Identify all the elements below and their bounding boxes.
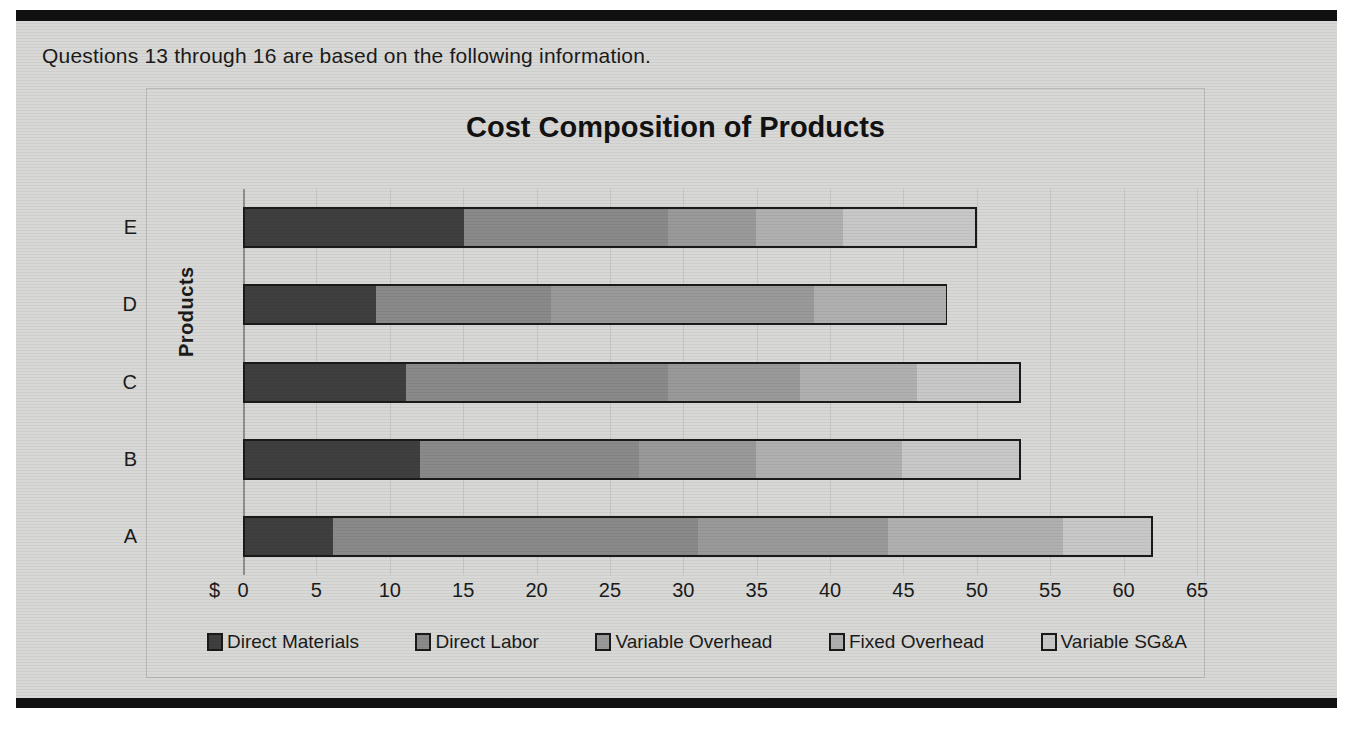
legend-swatch-icon bbox=[1041, 633, 1057, 651]
bar-segment[interactable] bbox=[814, 286, 945, 323]
legend-item[interactable]: Fixed Overhead bbox=[829, 631, 984, 653]
stacked-bar-c[interactable] bbox=[243, 362, 1021, 403]
x-tick-label: 65 bbox=[1186, 579, 1208, 602]
legend-swatch-icon bbox=[207, 633, 223, 651]
category-label-c: C bbox=[97, 371, 137, 394]
bar-segment[interactable] bbox=[245, 286, 376, 323]
legend-label: Variable SG&A bbox=[1061, 631, 1187, 653]
bar-segment[interactable] bbox=[245, 364, 406, 401]
bar-segment[interactable] bbox=[800, 364, 917, 401]
bar-segment[interactable] bbox=[639, 441, 756, 478]
bar-segment[interactable] bbox=[245, 209, 464, 246]
bar-segment[interactable] bbox=[245, 518, 333, 555]
legend-swatch-icon bbox=[595, 633, 611, 651]
bar-segment[interactable] bbox=[668, 209, 756, 246]
stacked-bar-d[interactable] bbox=[243, 284, 947, 325]
category-label-e: E bbox=[97, 216, 137, 239]
legend-swatch-icon bbox=[415, 633, 431, 651]
bar-segment[interactable] bbox=[1063, 518, 1151, 555]
scanned-page-panel: Questions 13 through 16 are based on the… bbox=[16, 10, 1337, 708]
chart-container: Cost Composition of Products Products ED… bbox=[146, 88, 1205, 678]
y-axis-label: Products bbox=[175, 266, 198, 357]
x-tick-label: 50 bbox=[966, 579, 988, 602]
x-tick-label: 20 bbox=[525, 579, 547, 602]
stacked-bar-e[interactable] bbox=[243, 207, 977, 248]
legend-label: Direct Labor bbox=[435, 631, 539, 653]
bar-segment[interactable] bbox=[902, 441, 1019, 478]
page-root: Questions 13 through 16 are based on the… bbox=[0, 0, 1353, 734]
bar-segment[interactable] bbox=[698, 518, 888, 555]
instruction-text: Questions 13 through 16 are based on the… bbox=[42, 44, 651, 68]
category-label-d: D bbox=[97, 293, 137, 316]
bar-segment[interactable] bbox=[756, 209, 844, 246]
x-tick-label: 10 bbox=[379, 579, 401, 602]
chart-legend: Direct MaterialsDirect LaborVariable Ove… bbox=[207, 625, 1187, 659]
gridline bbox=[1197, 189, 1198, 575]
bar-segment[interactable] bbox=[376, 286, 551, 323]
legend-label: Variable Overhead bbox=[615, 631, 772, 653]
x-tick-label: 60 bbox=[1112, 579, 1134, 602]
legend-item[interactable]: Variable Overhead bbox=[595, 631, 772, 653]
x-tick-label: 55 bbox=[1039, 579, 1061, 602]
x-tick-label: 45 bbox=[892, 579, 914, 602]
x-tick-label: 15 bbox=[452, 579, 474, 602]
bar-segment[interactable] bbox=[420, 441, 639, 478]
bar-segment[interactable] bbox=[333, 518, 698, 555]
bar-segment[interactable] bbox=[843, 209, 974, 246]
x-tick-label: 25 bbox=[599, 579, 621, 602]
bar-segment[interactable] bbox=[917, 364, 1019, 401]
legend-item[interactable]: Variable SG&A bbox=[1041, 631, 1187, 653]
legend-swatch-icon bbox=[829, 633, 845, 651]
x-tick-label: 30 bbox=[672, 579, 694, 602]
currency-symbol: $ bbox=[209, 579, 220, 602]
bar-segment[interactable] bbox=[668, 364, 799, 401]
bottom-rule-divider bbox=[16, 698, 1337, 708]
legend-label: Fixed Overhead bbox=[849, 631, 984, 653]
legend-item[interactable]: Direct Labor bbox=[415, 631, 539, 653]
top-rule-divider bbox=[16, 10, 1337, 21]
category-label-b: B bbox=[97, 448, 137, 471]
plot-area: EDCBA bbox=[243, 189, 1197, 575]
chart-title: Cost Composition of Products bbox=[147, 111, 1204, 144]
bar-segment[interactable] bbox=[464, 209, 668, 246]
x-tick-label: 5 bbox=[311, 579, 322, 602]
legend-label: Direct Materials bbox=[227, 631, 359, 653]
bar-segment[interactable] bbox=[756, 441, 902, 478]
bar-segment[interactable] bbox=[245, 441, 420, 478]
category-label-a: A bbox=[97, 525, 137, 548]
legend-item[interactable]: Direct Materials bbox=[207, 631, 359, 653]
bar-segment[interactable] bbox=[406, 364, 669, 401]
stacked-bar-a[interactable] bbox=[243, 516, 1153, 557]
x-tick-label: 0 bbox=[237, 579, 248, 602]
bar-segment[interactable] bbox=[551, 286, 814, 323]
bar-segment[interactable] bbox=[888, 518, 1063, 555]
stacked-bar-b[interactable] bbox=[243, 439, 1021, 480]
x-tick-label: 40 bbox=[819, 579, 841, 602]
x-axis-ticks: 05101520253035404550556065 bbox=[243, 579, 1197, 609]
x-tick-label: 35 bbox=[746, 579, 768, 602]
